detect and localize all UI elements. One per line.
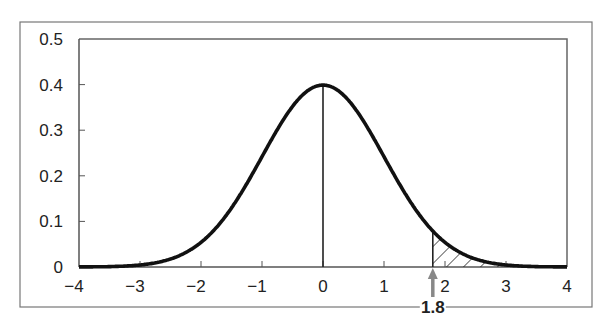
arrow-up-icon xyxy=(428,268,438,279)
x-tick-label: 1 xyxy=(379,277,388,296)
x-tick-label: 0 xyxy=(318,277,327,296)
y-tick-label: 0.3 xyxy=(39,121,63,140)
x-tick-label: 3 xyxy=(501,277,510,296)
plot-area: 00.10.20.30.40.5−4−3−2−1012341.8 xyxy=(39,30,571,317)
x-tick-label: 2 xyxy=(440,277,449,296)
y-tick-label: 0.2 xyxy=(39,167,63,186)
marker-label: 1.8 xyxy=(421,298,445,317)
x-tick-label: −2 xyxy=(186,277,205,296)
y-tick-label: 0 xyxy=(54,258,63,277)
y-tick-label: 0.1 xyxy=(39,212,63,231)
y-tick-label: 0.4 xyxy=(39,76,63,95)
x-tick-label: −1 xyxy=(247,277,266,296)
normal-distribution-chart: 00.10.20.30.40.5−4−3−2−1012341.8 xyxy=(0,0,603,327)
x-tick-label: −4 xyxy=(64,277,83,296)
y-tick-label: 0.5 xyxy=(39,30,63,49)
x-tick-label: 4 xyxy=(562,277,571,296)
x-tick-label: −3 xyxy=(125,277,144,296)
